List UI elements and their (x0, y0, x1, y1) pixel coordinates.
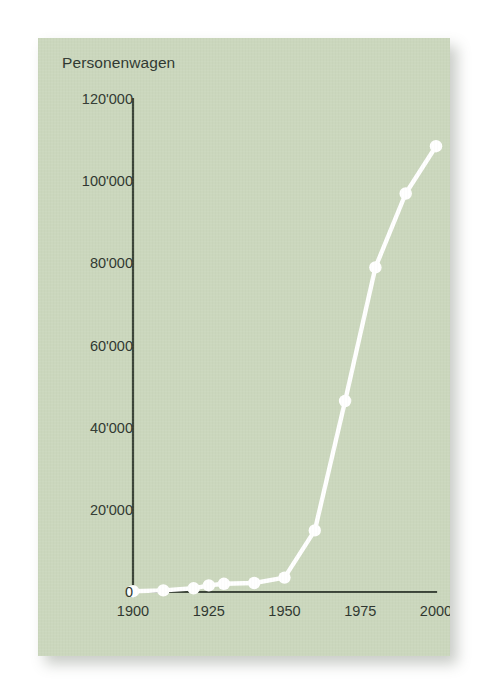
x-axis-tick-label: 1900 (98, 603, 168, 619)
x-axis-tick-label: 1925 (174, 603, 244, 619)
chart-card: Personenwagen 020'00040'00060'00080'0001… (38, 38, 450, 656)
x-axis-tick-label: 1975 (325, 603, 395, 619)
x-axis-tick-label: 1950 (250, 603, 320, 619)
x-axis-tick-label: 2000 (401, 603, 450, 619)
x-axis-tick-labels: 19001925195019752000 (38, 38, 450, 656)
